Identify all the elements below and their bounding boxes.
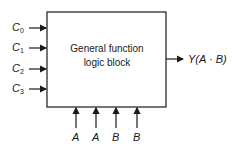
logic-block-diagram [0, 0, 232, 147]
input-label-b1: B [112, 132, 119, 143]
input-label-c0: C0 [12, 22, 24, 34]
block-label-line1: General function [48, 42, 166, 56]
input-label-c1: C1 [12, 42, 24, 54]
block-label-line2: logic block [48, 56, 166, 70]
block-label: General function logic block [48, 42, 166, 70]
input-label-a2: A [92, 132, 99, 143]
output-label: Y(A · B) [188, 54, 227, 65]
input-label-c2: C2 [12, 63, 24, 75]
input-label-a1: A [72, 132, 79, 143]
input-label-b2: B [133, 132, 140, 143]
input-label-c3: C3 [12, 83, 24, 95]
